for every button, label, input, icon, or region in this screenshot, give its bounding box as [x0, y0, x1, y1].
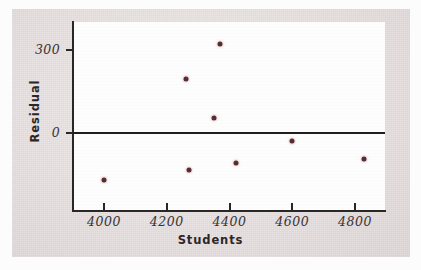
zero-reference-line: [73, 132, 385, 134]
x-tick-label: 4600: [275, 214, 309, 229]
data-point: [102, 178, 107, 183]
data-point: [233, 161, 238, 166]
y-axis-title: Residual: [28, 80, 42, 143]
x-tick-mark: [166, 203, 168, 210]
x-tick-label: 4200: [150, 214, 184, 229]
data-point: [362, 157, 367, 162]
screenshot-root: 0300 40004200440046004800 Residual Stude…: [0, 0, 421, 270]
x-tick-mark: [354, 203, 356, 210]
data-point: [211, 115, 216, 120]
x-tick-label: 4000: [87, 214, 121, 229]
data-point: [183, 77, 188, 82]
x-tick-mark: [103, 203, 105, 210]
data-point: [218, 42, 223, 47]
x-axis-spine: [72, 210, 386, 212]
plot-area-texture: [74, 22, 385, 211]
x-tick-mark: [291, 203, 293, 210]
y-tick-mark: [66, 49, 73, 51]
x-tick-label: 4800: [338, 214, 372, 229]
data-point: [186, 168, 191, 173]
y-tick-mark: [66, 132, 73, 134]
y-tick-label: 300: [0, 42, 60, 57]
data-point: [290, 139, 295, 144]
x-tick-mark: [229, 203, 231, 210]
x-axis-title: Students: [0, 233, 421, 247]
plot-area: [74, 22, 385, 211]
x-tick-label: 4400: [212, 214, 246, 229]
y-axis-title-wrapper: Residual: [26, 74, 44, 148]
